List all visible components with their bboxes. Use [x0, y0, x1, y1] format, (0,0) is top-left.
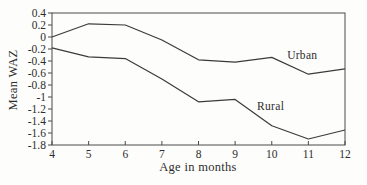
y-tick-label: -1.6 [28, 127, 46, 139]
chart-figure: 0.40.20-0.2-0.4-0.6-0.8-1-1.2-1.4-1.6-1.… [0, 0, 367, 185]
rural-line [52, 48, 345, 139]
x-tick-label: 10 [266, 148, 278, 160]
x-tick-label: 6 [122, 148, 128, 160]
x-axis-title: Age in months [159, 160, 237, 175]
y-tick-label: -1 [36, 91, 46, 103]
plot-frame [52, 13, 345, 145]
x-tick-label: 9 [232, 148, 238, 160]
waz-line-chart: 0.40.20-0.2-0.4-0.6-0.8-1-1.2-1.4-1.6-1.… [0, 0, 367, 185]
x-tick-label: 11 [303, 148, 314, 160]
x-tick-label: 7 [159, 148, 165, 160]
y-tick-label: -0.8 [28, 79, 46, 91]
urban-series-label: Urban [287, 49, 317, 61]
y-tick-label: -0.6 [28, 67, 46, 79]
y-tick-label: 0 [40, 31, 46, 43]
y-tick-label: -0.2 [28, 43, 46, 55]
y-tick-label: -1.8 [28, 139, 46, 151]
y-tick-label: 0.2 [32, 19, 47, 31]
x-tick-label: 8 [196, 148, 202, 160]
y-tick-label: -1.4 [28, 115, 46, 127]
y-axis-title: Mean WAZ [6, 50, 21, 111]
x-tick-label: 12 [339, 148, 351, 160]
y-tick-label: 0.4 [32, 7, 47, 19]
x-tick-label: 5 [86, 148, 92, 160]
y-tick-label: -0.4 [28, 55, 46, 67]
rural-series-label: Rural [257, 100, 284, 112]
x-tick-label: 4 [49, 148, 55, 160]
y-tick-label: -1.2 [28, 103, 46, 115]
